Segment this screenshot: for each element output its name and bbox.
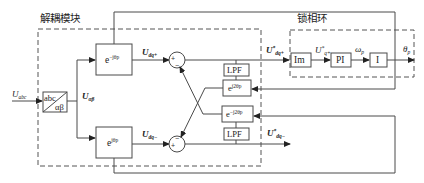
omega-p-label: ωp xyxy=(355,44,364,55)
svg-text:LPF: LPF xyxy=(227,65,242,75)
decoupling-module-boundary xyxy=(38,29,261,166)
u-dq-pos-star-label: U*dq+ xyxy=(266,45,284,56)
u-dq-neg-label: Udq− xyxy=(142,129,157,140)
pll-module-label: 锁相环 xyxy=(297,12,327,24)
u-abc-label: Uabc xyxy=(12,89,27,100)
theta-p-label: θp xyxy=(403,44,410,55)
dsogi-pll-block-diagram: 解耦模块 锁相环 Uabc abc αβ Uαβ e−jθp ejθp Udq+… xyxy=(0,0,424,183)
rotation-neg-theta-block: e−jθp xyxy=(96,44,132,75)
svg-text:+: + xyxy=(171,55,175,62)
u-dq-pos-label: Udq+ xyxy=(142,47,157,58)
integrator-block: I xyxy=(370,53,387,67)
cross-coupling-to-top-summer xyxy=(180,67,222,114)
rotation-pos-2theta-block: ej2θp xyxy=(223,80,251,96)
svg-text:Im: Im xyxy=(294,55,305,65)
decoupling-module-label: 解耦模块 xyxy=(40,12,81,24)
im-block: Im xyxy=(291,53,311,67)
pi-controller-block: PI xyxy=(331,53,351,67)
svg-text:LPF: LPF xyxy=(227,129,242,139)
svg-text:I: I xyxy=(376,55,379,65)
lpf-bottom-block: LPF xyxy=(224,128,249,140)
top-summing-junction: + − xyxy=(169,52,185,69)
lpf-top-block: LPF xyxy=(224,64,249,76)
svg-text:−: − xyxy=(175,62,179,69)
u-q-pos-star-label: U*q+ xyxy=(315,45,331,56)
rotation-neg-2theta-block: e−j2θp xyxy=(222,106,253,122)
svg-text:−: − xyxy=(175,135,179,142)
bottom-summing-junction: + − xyxy=(169,135,185,152)
svg-text:αβ: αβ xyxy=(55,102,64,112)
abc-to-alphabeta-block: abc αβ xyxy=(43,92,67,112)
svg-text:+: + xyxy=(171,142,175,149)
rotation-pos-theta-block: ejθp xyxy=(96,127,132,158)
svg-text:PI: PI xyxy=(336,55,344,65)
u-alphabeta-label: Uαβ xyxy=(82,91,95,102)
u-dq-neg-star-label: U*dq− xyxy=(267,128,285,139)
